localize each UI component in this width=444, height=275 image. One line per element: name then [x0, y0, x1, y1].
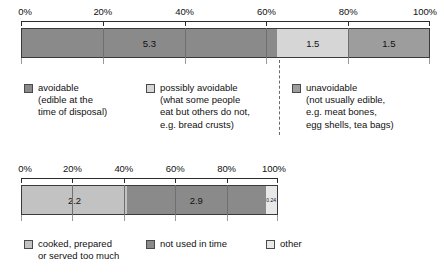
figure-root: 0% 20% 40% 60% 80% 100% 5.3 1.5 1.5 [0, 0, 444, 275]
legend-label: cooked, prepared [38, 238, 119, 250]
chart2-legend: cooked, prepared or served too much not … [0, 0, 444, 275]
legend-item-cooked-prepared[interactable]: cooked, prepared or served too much [24, 238, 119, 262]
legend-detail: or served too much [38, 250, 119, 262]
legend-item-other[interactable]: other [266, 238, 302, 250]
legend-item-not-used-in-time[interactable]: not used in time [146, 238, 227, 250]
legend-swatch-icon [24, 240, 33, 249]
legend-label: other [280, 238, 302, 250]
legend-swatch-icon [146, 240, 155, 249]
legend-label: not used in time [160, 238, 227, 250]
legend-swatch-icon [266, 240, 275, 249]
